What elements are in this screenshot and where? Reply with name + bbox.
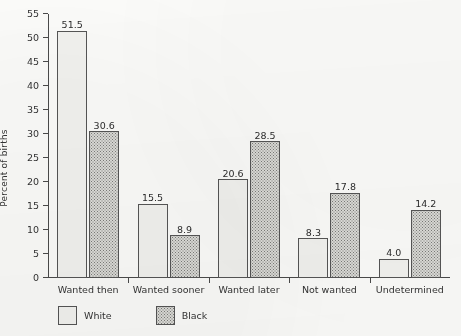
bar-value-label: 14.2 — [415, 199, 436, 209]
bar-black-wanted-later: 28.5 — [250, 141, 280, 278]
bar-group-not-wanted: 8.317.8 — [298, 14, 360, 278]
bar-group-wanted-sooner: 15.58.9 — [138, 14, 200, 278]
y-axis-title: Percent of births — [0, 129, 9, 207]
bar-value-label: 4.0 — [386, 248, 401, 258]
y-axis-line — [48, 14, 49, 278]
bar-value-label: 28.5 — [254, 131, 275, 141]
y-tick-25: 25 — [43, 157, 48, 158]
y-tick-label-45: 45 — [27, 57, 39, 67]
y-tick-50: 50 — [43, 37, 48, 38]
bar-value-label: 20.6 — [222, 169, 243, 179]
legend-label: Black — [182, 311, 208, 321]
bar-black-wanted-then: 30.6 — [89, 131, 119, 278]
bar-black-wanted-sooner: 8.9 — [170, 235, 200, 278]
bar-group-wanted-later: 20.628.5 — [218, 14, 280, 278]
category-label-wanted-sooner: Wanted sooner — [128, 285, 208, 295]
plot-area: 0510152025303540455055 51.530.615.58.920… — [48, 14, 450, 278]
y-tick-label-10: 10 — [27, 225, 39, 235]
bar-black-undetermined: 14.2 — [411, 210, 441, 278]
y-tick-15: 15 — [43, 205, 48, 206]
legend-item-white: White — [58, 306, 112, 325]
category-label-wanted-later: Wanted later — [209, 285, 289, 295]
bar-white-not-wanted: 8.3 — [298, 238, 328, 278]
y-tick-label-20: 20 — [27, 177, 39, 187]
bar-white-wanted-then: 51.5 — [57, 31, 87, 278]
x-tick-3 — [289, 278, 290, 283]
bar-chart-figure: Percent of births 0510152025303540455055… — [0, 0, 461, 336]
bar-white-undetermined: 4.0 — [379, 259, 409, 278]
legend-label: White — [84, 311, 112, 321]
y-tick-label-40: 40 — [27, 81, 39, 91]
y-tick-label-25: 25 — [27, 153, 39, 163]
bar-value-label: 30.6 — [94, 121, 115, 131]
category-label-undetermined: Undetermined — [370, 285, 450, 295]
y-tick-35: 35 — [43, 109, 48, 110]
bar-white-wanted-later: 20.6 — [218, 179, 248, 278]
black-stippled-swatch — [156, 306, 175, 325]
y-tick-label-0: 0 — [33, 273, 39, 283]
bar-value-label: 15.5 — [142, 193, 163, 203]
y-tick-label-55: 55 — [27, 9, 39, 19]
category-label-not-wanted: Not wanted — [289, 285, 369, 295]
y-tick-label-5: 5 — [33, 249, 39, 259]
chart-legend: WhiteBlack — [58, 306, 207, 325]
bar-value-label: 8.9 — [177, 225, 192, 235]
y-tick-20: 20 — [43, 181, 48, 182]
y-tick-0: 0 — [43, 277, 48, 278]
bar-value-label: 8.3 — [306, 228, 321, 238]
y-tick-10: 10 — [43, 229, 48, 230]
category-label-wanted-then: Wanted then — [48, 285, 128, 295]
y-tick-30: 30 — [43, 133, 48, 134]
legend-item-black: Black — [156, 306, 208, 325]
bar-value-label: 51.5 — [62, 20, 83, 30]
y-tick-label-35: 35 — [27, 105, 39, 115]
y-tick-label-15: 15 — [27, 201, 39, 211]
x-tick-4 — [370, 278, 371, 283]
x-tick-1 — [128, 278, 129, 283]
x-tick-2 — [209, 278, 210, 283]
white-swatch — [58, 306, 77, 325]
y-tick-label-50: 50 — [27, 33, 39, 43]
bar-group-undetermined: 4.014.2 — [379, 14, 441, 278]
bar-value-label: 17.8 — [335, 182, 356, 192]
y-tick-45: 45 — [43, 61, 48, 62]
bar-group-wanted-then: 51.530.6 — [57, 14, 119, 278]
y-tick-5: 5 — [43, 253, 48, 254]
bar-black-not-wanted: 17.8 — [330, 193, 360, 278]
bar-white-wanted-sooner: 15.5 — [138, 204, 168, 278]
y-tick-40: 40 — [43, 85, 48, 86]
y-tick-55: 55 — [43, 13, 48, 14]
y-tick-label-30: 30 — [27, 129, 39, 139]
